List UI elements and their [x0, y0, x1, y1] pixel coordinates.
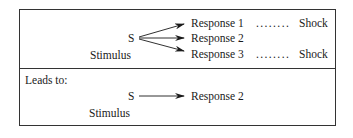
response-3-outcome: Shock: [299, 48, 328, 60]
stimulus-label: Stimulus: [90, 49, 131, 61]
arrow-to-response-1: [139, 24, 184, 37]
bottom-response-label: Response 2: [191, 90, 244, 102]
leads-to-heading: Leads to:: [25, 74, 67, 86]
bottom-stimulus-symbol: S: [128, 90, 134, 102]
response-2-label: Response 2: [191, 32, 244, 44]
response-1-label: Response 1: [191, 17, 244, 29]
response-3-label: Response 3: [191, 48, 244, 60]
response-3-leader: ........: [256, 48, 290, 60]
bottom-stimulus-label: Stimulus: [89, 107, 130, 119]
response-1-leader: ........: [256, 17, 290, 29]
response-1-outcome: Shock: [299, 17, 328, 29]
stimulus-symbol: S: [128, 32, 134, 44]
arrow-to-response-3: [139, 39, 184, 51]
